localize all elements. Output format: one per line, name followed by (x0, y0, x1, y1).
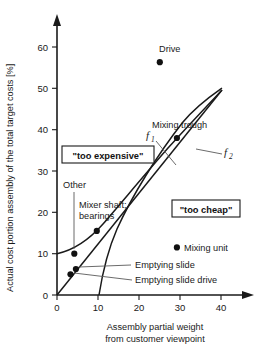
y-axis-title: Actual cost portion assembly of the tota… (5, 64, 15, 292)
y-ticklabel-0: 0 (43, 290, 48, 301)
point-drive (157, 59, 163, 65)
point-emptying-slide (73, 266, 79, 272)
y-ticklabel-50: 50 (37, 83, 48, 94)
x-ticklabel-0: 0 (54, 302, 59, 313)
x-ticklabel-10: 10 (93, 302, 104, 313)
label-mixer-shaft-line2: bearings (79, 211, 115, 221)
curve-f1 (57, 90, 222, 254)
y-ticklabel-30: 30 (37, 166, 48, 177)
x-axis-title-line1: Assembly partial weight (107, 322, 204, 332)
point-mixing-unit (174, 244, 180, 250)
x-ticks: 0 10 20 30 40 (54, 295, 226, 313)
x-ticklabel-30: 30 (175, 302, 186, 313)
y-ticks: 0 10 20 30 40 50 60 (37, 42, 57, 301)
f2-subscript: 2 (229, 152, 233, 161)
label-emptying-slide: Emptying slide (135, 260, 195, 270)
data-points (67, 59, 180, 277)
label-mixer-shaft-line1: Mixer shaft; (79, 200, 126, 210)
x-ticklabel-20: 20 (134, 302, 145, 313)
y-ticklabel-60: 60 (37, 42, 48, 53)
point-mixer-shaft-bearings (94, 228, 100, 234)
label-drive: Drive (159, 44, 180, 54)
label-mixing-unit: Mixing unit (184, 243, 228, 253)
x-ticklabel-40: 40 (216, 302, 227, 313)
curve-label-f2: f 2 (196, 146, 233, 161)
annotation-too-cheap: "too cheap" (172, 200, 240, 217)
y-axis-arrow (53, 14, 61, 26)
point-other (71, 251, 77, 257)
f1-subscript: 1 (151, 135, 155, 144)
x-axis-arrow (242, 291, 254, 299)
chart-container: Actual cost portion assembly of the tota… (0, 0, 274, 349)
point-emptying-slide-drive (67, 271, 73, 277)
too-cheap-label: "too cheap" (180, 205, 233, 215)
annotation-too-expensive: "too expensive" (62, 146, 154, 163)
scatter-plot: Actual cost portion assembly of the tota… (0, 0, 274, 349)
leader-f2 (196, 149, 222, 154)
x-axis-title-line2: from customer viewpoint (105, 334, 205, 344)
too-expensive-label: "too expensive" (73, 151, 144, 161)
y-ticklabel-20: 20 (37, 207, 48, 218)
point-mixing-trough (174, 135, 180, 141)
label-other: Other (63, 180, 86, 190)
label-mixing-trough: Mixing trough (152, 120, 207, 130)
y-ticklabel-40: 40 (37, 124, 48, 135)
label-emptying-slide-drive: Emptying slide drive (135, 275, 217, 285)
y-ticklabel-10: 10 (37, 248, 48, 259)
